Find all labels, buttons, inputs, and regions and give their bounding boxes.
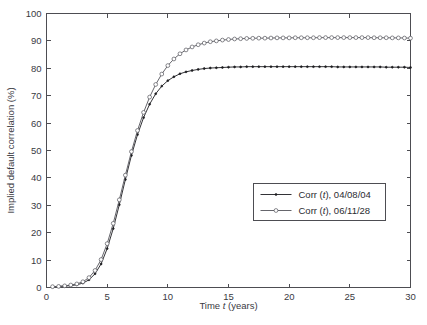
series-marker bbox=[330, 36, 334, 40]
y-tick-label: 70 bbox=[31, 90, 42, 101]
series-marker bbox=[149, 103, 151, 105]
series-marker bbox=[312, 36, 316, 40]
x-tick-label: 5 bbox=[105, 291, 110, 302]
series-marker bbox=[275, 36, 279, 40]
series-marker bbox=[251, 36, 255, 40]
x-tick-label: 30 bbox=[405, 291, 416, 302]
series-marker bbox=[117, 198, 121, 202]
series-marker bbox=[63, 284, 67, 288]
series-marker bbox=[354, 36, 358, 40]
series-marker bbox=[299, 36, 303, 40]
series-marker bbox=[99, 258, 103, 262]
series-marker bbox=[172, 57, 176, 61]
x-axis-title: Time t (years) bbox=[199, 300, 257, 311]
series-marker bbox=[202, 41, 206, 45]
y-tick-label: 10 bbox=[31, 255, 42, 266]
series-marker bbox=[93, 269, 97, 273]
series-marker bbox=[269, 36, 273, 40]
series-marker bbox=[239, 37, 243, 41]
series-marker bbox=[215, 67, 217, 69]
series-marker bbox=[366, 36, 370, 40]
series-marker bbox=[234, 66, 236, 68]
legend-item-label: Corr (t), 04/08/04 bbox=[299, 189, 371, 200]
series-marker bbox=[318, 36, 322, 40]
series-marker bbox=[342, 36, 346, 40]
series-marker bbox=[300, 66, 302, 68]
series-marker bbox=[336, 36, 340, 40]
series-marker bbox=[208, 40, 212, 44]
y-tick-label: 90 bbox=[31, 35, 42, 46]
series-marker bbox=[179, 73, 181, 75]
series-marker bbox=[143, 117, 145, 119]
series-marker bbox=[403, 36, 407, 40]
series-marker bbox=[355, 66, 357, 68]
series-marker bbox=[385, 66, 387, 68]
plot-box bbox=[47, 14, 411, 288]
series-marker bbox=[409, 36, 413, 40]
x-tick-label: 25 bbox=[345, 291, 356, 302]
series-marker bbox=[123, 173, 127, 177]
series-marker bbox=[361, 66, 363, 68]
series-marker bbox=[349, 66, 351, 68]
series-marker bbox=[154, 83, 158, 87]
series-marker bbox=[221, 38, 225, 42]
chart-series bbox=[52, 66, 412, 288]
series-marker bbox=[240, 66, 242, 68]
series-marker bbox=[75, 282, 79, 286]
series-marker bbox=[105, 242, 109, 246]
series-marker bbox=[228, 66, 230, 68]
series-marker bbox=[87, 276, 91, 280]
series-marker bbox=[190, 45, 194, 49]
series-marker bbox=[263, 36, 267, 40]
series-marker bbox=[196, 43, 200, 47]
series-marker bbox=[221, 67, 223, 69]
chart-canvas: 0510152025300102030405060708090100 Corr … bbox=[0, 0, 427, 325]
y-tick-label: 60 bbox=[31, 118, 42, 129]
axis-group: 0510152025300102030405060708090100 bbox=[26, 8, 416, 302]
series-marker bbox=[173, 76, 175, 78]
y-tick-label: 0 bbox=[36, 282, 41, 293]
series-marker bbox=[288, 66, 290, 68]
series-marker bbox=[378, 36, 382, 40]
x-axis-title-variable: t bbox=[223, 300, 226, 311]
series-marker bbox=[227, 38, 231, 42]
series-marker bbox=[191, 70, 193, 72]
series-marker bbox=[403, 66, 405, 68]
series-marker bbox=[136, 129, 140, 133]
series-marker bbox=[69, 283, 73, 287]
series-marker bbox=[324, 36, 328, 40]
y-tick-label: 100 bbox=[26, 8, 42, 19]
series-marker bbox=[390, 36, 394, 40]
chart-figure: 0510152025300102030405060708090100 Corr … bbox=[0, 0, 427, 325]
series-marker bbox=[94, 273, 96, 275]
chart-legend[interactable]: Corr (t), 04/08/04Corr (t), 06/11/28 bbox=[254, 184, 386, 221]
series-marker bbox=[331, 66, 333, 68]
series-marker bbox=[319, 66, 321, 68]
series-marker bbox=[142, 111, 146, 115]
series-marker bbox=[343, 66, 345, 68]
series-marker bbox=[379, 66, 381, 68]
series-marker bbox=[185, 71, 187, 73]
legend-item-label: Corr (t), 06/11/28 bbox=[299, 205, 371, 216]
series-marker bbox=[287, 36, 291, 40]
series-marker bbox=[294, 66, 296, 68]
series-marker bbox=[252, 66, 254, 68]
series-marker bbox=[178, 52, 182, 56]
series-marker bbox=[112, 228, 114, 230]
series-marker bbox=[293, 36, 297, 40]
series-marker bbox=[166, 64, 170, 68]
series-marker bbox=[276, 66, 278, 68]
series-marker bbox=[130, 150, 134, 154]
series-marker bbox=[100, 263, 102, 265]
series-marker bbox=[209, 67, 211, 69]
series-marker bbox=[282, 66, 284, 68]
series-marker bbox=[245, 37, 249, 41]
series-marker bbox=[348, 36, 352, 40]
series-marker bbox=[111, 221, 115, 225]
series-marker bbox=[233, 37, 237, 41]
y-tick-label: 20 bbox=[31, 227, 42, 238]
y-axis-title: Implied default correlation (%) bbox=[5, 87, 16, 213]
series-marker bbox=[270, 66, 272, 68]
series-marker bbox=[281, 36, 285, 40]
series-marker bbox=[203, 68, 205, 70]
